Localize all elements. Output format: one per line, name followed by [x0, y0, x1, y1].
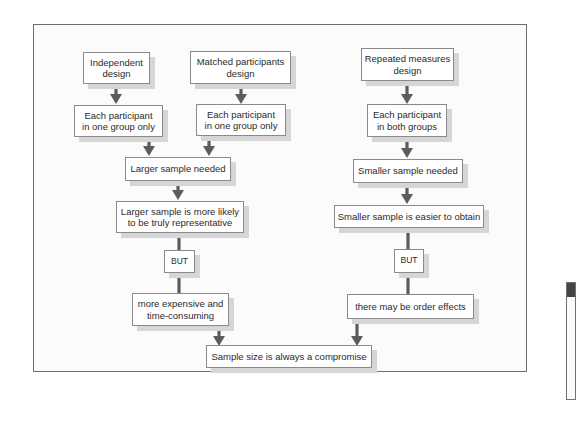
- node-but-left: BUT: [164, 250, 195, 273]
- arrowhead: [110, 94, 122, 104]
- arrowhead: [172, 190, 184, 200]
- node-order-effects: there may be order effects: [347, 294, 474, 319]
- node-matched-participants-design: Matched participants design: [190, 51, 291, 84]
- node-smaller-sample-needed: Smaller sample needed: [353, 159, 463, 183]
- arrowhead: [235, 94, 247, 104]
- arrowhead: [203, 146, 215, 156]
- node-more-expensive: more expensive and time-consuming: [132, 293, 229, 326]
- node-larger-sample-needed: Larger sample needed: [125, 157, 231, 181]
- node-larger-sample-representative: Larger sample is more likely to be truly…: [116, 201, 244, 233]
- arrowhead: [401, 148, 413, 158]
- arrowhead: [401, 194, 413, 204]
- arrowhead: [143, 146, 155, 156]
- node-both-groups: Each participant in both groups: [367, 104, 447, 137]
- node-but-right: BUT: [394, 249, 424, 273]
- node-one-group-mid: Each participant in one group only: [196, 104, 286, 136]
- node-one-group-left: Each participant in one group only: [74, 105, 163, 137]
- node-repeated-measures-design: Repeated measures design: [361, 48, 454, 81]
- node-independent-design: Independent design: [83, 52, 150, 84]
- node-sample-size-compromise: Sample size is always a compromise: [206, 345, 372, 368]
- node-smaller-sample-easier: Smaller sample is easier to obtain: [334, 205, 484, 228]
- arrowhead: [401, 94, 413, 104]
